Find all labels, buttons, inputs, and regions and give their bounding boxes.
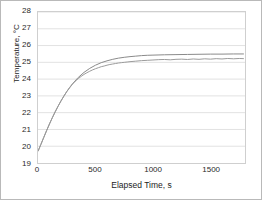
y-axis-tick-labels: 19202122232425262728: [1, 11, 34, 164]
y-axis-tick-label: 26: [22, 41, 31, 49]
x-axis-tick-label: 1500: [202, 166, 220, 174]
y-axis-tick-label: 25: [22, 58, 31, 66]
y-axis-tick-label: 28: [22, 7, 31, 15]
x-axis-tick-labels: 050010001500: [37, 166, 246, 178]
x-axis-title: Elapsed Time, s: [37, 180, 246, 190]
y-axis-tick-label: 19: [22, 160, 31, 168]
chart-figure: Temperature, °C 19202122232425262728 050…: [0, 0, 262, 200]
series-line: [38, 54, 244, 151]
x-axis-tick-label: 500: [88, 166, 101, 174]
y-axis-tick-label: 20: [22, 143, 31, 151]
y-axis-tick-label: 23: [22, 92, 31, 100]
x-axis-tick-label: 0: [35, 166, 39, 174]
plot-area: [37, 11, 246, 164]
y-axis-tick-label: 24: [22, 75, 31, 83]
y-axis-tick-label: 22: [22, 109, 31, 117]
series-line: [38, 58, 244, 151]
series-lines: [38, 12, 245, 163]
x-axis-tick-label: 1000: [144, 166, 162, 174]
y-axis-tick-label: 27: [22, 24, 31, 32]
y-axis-tick-label: 21: [22, 126, 31, 134]
